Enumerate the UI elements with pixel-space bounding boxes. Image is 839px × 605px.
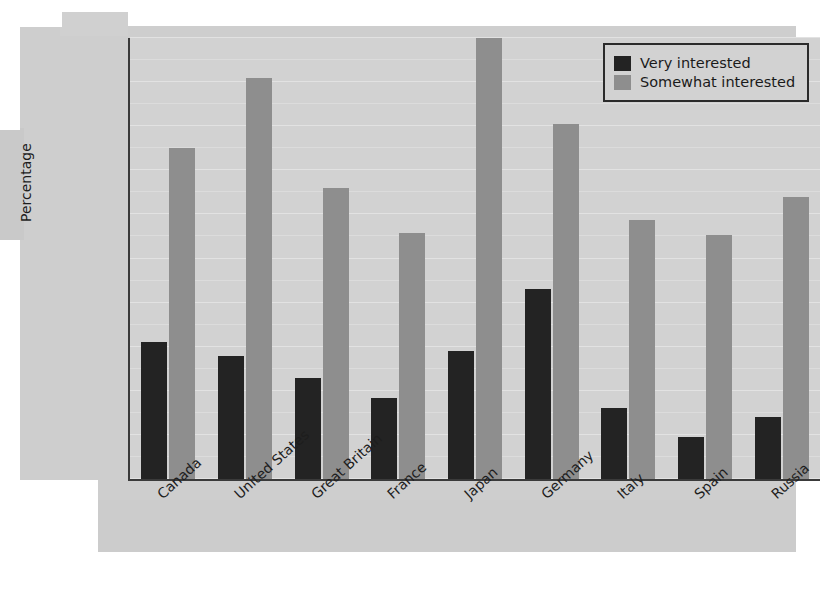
page-panel-top-tab: [60, 12, 128, 36]
bar-group: [667, 38, 744, 479]
bar: [706, 235, 732, 479]
bar: [783, 197, 809, 479]
bar: [476, 38, 502, 479]
bar: [399, 233, 425, 479]
legend-label-very-interested: Very interested: [640, 55, 751, 71]
bar-group: [360, 38, 437, 479]
legend-label-somewhat-interested: Somewhat interested: [640, 74, 795, 90]
bar: [169, 148, 195, 479]
bar: [218, 356, 244, 479]
bar-chart-figure: Percentage 05101520253035404550 CanadaUn…: [0, 0, 839, 605]
legend-item-very-interested: Very interested: [614, 55, 795, 71]
bar: [755, 417, 781, 479]
bar: [246, 78, 272, 479]
bar-group: [590, 38, 667, 479]
plot-area: [128, 38, 820, 481]
bar-group: [207, 38, 284, 479]
legend-swatch-very-interested-icon: [614, 56, 631, 71]
bar: [141, 342, 167, 479]
chart-legend: Very interested Somewhat interested: [603, 43, 809, 102]
bar: [678, 437, 704, 479]
bar-group: [743, 38, 820, 479]
bar: [525, 289, 551, 480]
bar: [448, 351, 474, 479]
x-axis-ticks: CanadaUnited StatesGreat BritainFranceJa…: [128, 486, 818, 596]
bar: [323, 188, 349, 479]
bar: [629, 220, 655, 479]
bar: [553, 124, 579, 479]
bar: [601, 408, 627, 479]
page-notch-left-upper: [0, 0, 20, 130]
bar-group: [130, 38, 207, 479]
y-axis-title: Percentage: [18, 143, 34, 222]
legend-item-somewhat-interested: Somewhat interested: [614, 74, 795, 90]
page-notch-left-lower: [0, 240, 20, 505]
bar-group: [513, 38, 590, 479]
bar-group: [283, 38, 360, 479]
bar-group: [437, 38, 514, 479]
legend-swatch-somewhat-interested-icon: [614, 75, 631, 90]
